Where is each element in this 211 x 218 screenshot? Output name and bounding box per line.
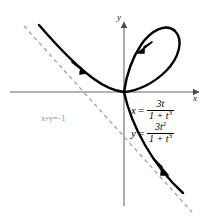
equation-x-denominator-exponent: 3 — [169, 108, 172, 115]
equation-y-fraction: 3t2 1 + t3 — [147, 122, 174, 144]
equation-x-equals: = — [138, 104, 144, 116]
folium-of-descartes-figure: y x x+y=−1 x = 3t 1 + t3 y = 3t2 1 + t3 — [0, 0, 211, 218]
asymptote-label: x+y=−1 — [41, 115, 65, 123]
direction-arrow-lower-right — [153, 158, 168, 175]
curve-upper-left-branch — [39, 25, 124, 92]
equation-y: y = 3t2 1 + t3 — [131, 122, 174, 144]
equation-y-denominator-exponent: 3 — [169, 131, 172, 138]
curve-loop — [124, 28, 180, 92]
equation-x-numerator: 3t — [155, 99, 167, 110]
equation-x-lhs: x — [131, 104, 136, 116]
y-axis-label: y — [117, 13, 121, 22]
equation-x-fraction: 3t 1 + t3 — [147, 99, 174, 121]
parametric-equations: x = 3t 1 + t3 y = 3t2 1 + t3 — [131, 99, 174, 145]
curve-plot — [0, 0, 211, 218]
direction-arrow-upper-left — [72, 62, 86, 74]
equation-y-equals: = — [138, 127, 144, 139]
equation-y-numerator: 3t2 — [153, 122, 168, 133]
x-axis-label: x — [193, 94, 197, 103]
equation-y-numerator-base: 3t — [155, 121, 163, 132]
equation-x: x = 3t 1 + t3 — [131, 99, 174, 121]
equation-y-denominator: 1 + t3 — [147, 134, 174, 145]
equation-y-numerator-exponent: 2 — [163, 120, 166, 127]
equation-y-lhs: y — [131, 127, 136, 139]
equation-x-denominator: 1 + t3 — [147, 111, 174, 122]
equation-y-denominator-base: 1 + t — [149, 133, 169, 144]
